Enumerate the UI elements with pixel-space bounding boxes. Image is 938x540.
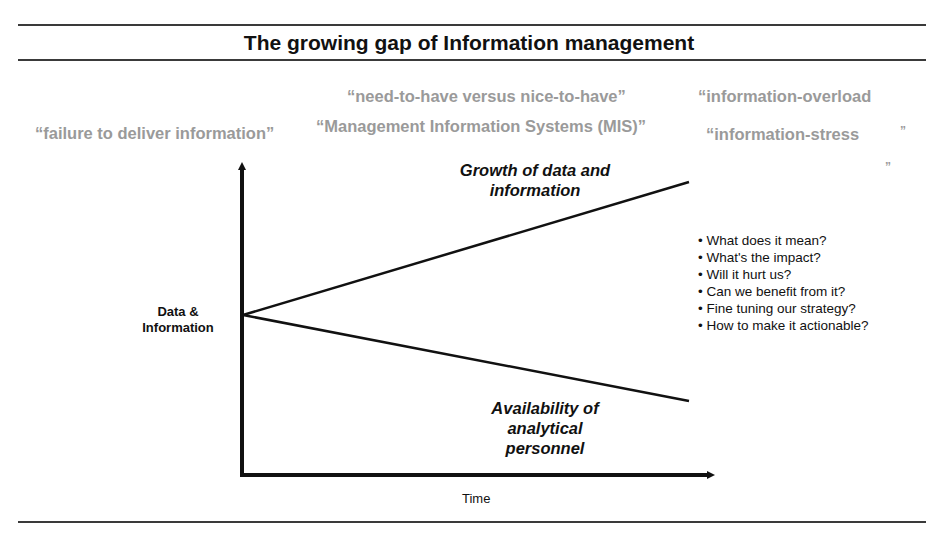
- availability-label-line1: Availability of: [470, 398, 620, 418]
- y-axis-label: Data & Information: [128, 304, 228, 336]
- y-axis-label-line1: Data &: [128, 304, 228, 320]
- question-list: What does it mean? What's the impact? Wi…: [698, 232, 869, 334]
- availability-label: Availability of analytical personnel: [470, 398, 620, 458]
- availability-line: [243, 315, 689, 401]
- bottom-rule: [18, 521, 926, 523]
- question-item: Can we benefit from it?: [698, 283, 869, 300]
- question-item: Will it hurt us?: [698, 266, 869, 283]
- availability-label-line3: personnel: [470, 438, 620, 458]
- x-axis-label: Time: [462, 491, 490, 506]
- question-item: What does it mean?: [698, 232, 869, 249]
- growth-label-line1: Growth of data and: [440, 160, 630, 180]
- question-item: What's the impact?: [698, 249, 869, 266]
- growth-line: [243, 182, 689, 315]
- growth-label-line2: information: [440, 180, 630, 200]
- y-axis-label-line2: Information: [128, 320, 228, 336]
- availability-label-line2: analytical: [470, 418, 620, 438]
- question-item: Fine tuning our strategy?: [698, 300, 869, 317]
- question-item: How to make it actionable?: [698, 317, 869, 334]
- growth-label: Growth of data and information: [440, 160, 630, 200]
